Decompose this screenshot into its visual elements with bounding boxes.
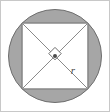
radius-label: r bbox=[71, 64, 76, 76]
geometry-diagram: r bbox=[0, 0, 110, 112]
center-point bbox=[53, 54, 57, 58]
figure-container: r bbox=[0, 0, 110, 112]
